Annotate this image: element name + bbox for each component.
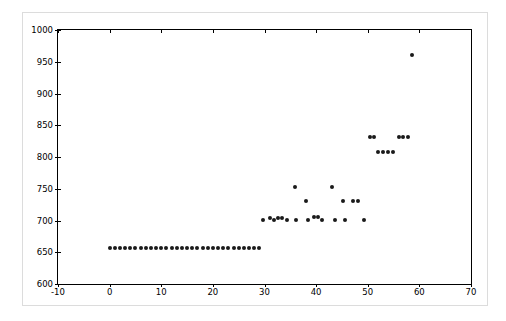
scatter-point xyxy=(261,218,265,222)
scatter-point xyxy=(316,215,320,219)
x-tick-mark-top xyxy=(368,30,369,33)
scatter-point xyxy=(170,246,174,250)
scatter-point xyxy=(372,135,376,139)
scatter-point xyxy=(175,246,179,250)
x-axis-tick-label: 0 xyxy=(107,288,112,297)
scatter-point xyxy=(293,185,297,189)
scatter-point xyxy=(237,246,241,250)
scatter-point xyxy=(232,246,236,250)
y-axis-tick-label: 850 xyxy=(37,121,53,130)
scatter-point xyxy=(154,246,158,250)
scatter-point xyxy=(320,218,324,222)
x-tick-mark-top xyxy=(471,30,472,33)
scatter-plot-axes: 6006507007508008509009501000-10010203040… xyxy=(57,29,472,285)
y-tick-mark-inner xyxy=(58,189,61,190)
scatter-point xyxy=(149,246,153,250)
y-tick-mark-inner xyxy=(58,62,61,63)
scatter-point xyxy=(343,218,347,222)
scatter-point xyxy=(381,150,385,154)
scatter-point xyxy=(268,216,272,220)
scatter-point xyxy=(190,246,194,250)
x-axis-tick-label: 20 xyxy=(207,288,218,297)
figure-canvas: 6006507007508008509009501000-10010203040… xyxy=(0,0,506,321)
scatter-point xyxy=(180,246,184,250)
scatter-point xyxy=(247,246,251,250)
y-tick-mark-inner xyxy=(58,157,61,158)
scatter-point xyxy=(195,246,199,250)
scatter-point xyxy=(216,246,220,250)
scatter-point xyxy=(201,246,205,250)
x-axis-tick-label: 60 xyxy=(414,288,425,297)
scatter-point xyxy=(133,246,137,250)
x-axis-tick-label: -10 xyxy=(51,288,65,297)
scatter-point xyxy=(211,246,215,250)
x-axis-tick-label: 50 xyxy=(362,288,373,297)
scatter-point xyxy=(139,246,143,250)
y-axis-tick-label: 800 xyxy=(37,153,53,162)
x-axis-tick-label: 40 xyxy=(311,288,322,297)
scatter-point xyxy=(108,246,112,250)
y-axis-tick-label: 950 xyxy=(37,58,53,67)
scatter-point xyxy=(368,135,372,139)
scatter-point xyxy=(351,199,355,203)
y-tick-mark-inner xyxy=(58,252,61,253)
scatter-point xyxy=(386,150,390,154)
scatter-point xyxy=(280,216,284,220)
x-axis-tick-label: 10 xyxy=(156,288,167,297)
scatter-point xyxy=(333,218,337,222)
scatter-point xyxy=(376,150,380,154)
x-tick-mark-top xyxy=(161,30,162,33)
scatter-point xyxy=(252,246,256,250)
y-axis-tick-label: 1000 xyxy=(31,26,53,35)
y-axis-tick-label: 650 xyxy=(37,248,53,257)
scatter-point xyxy=(401,135,405,139)
scatter-point xyxy=(410,53,414,57)
scatter-point xyxy=(294,218,298,222)
y-axis-tick-label: 700 xyxy=(37,216,53,225)
scatter-point xyxy=(206,246,210,250)
scatter-point xyxy=(304,199,308,203)
x-tick-mark-top xyxy=(316,30,317,33)
scatter-point xyxy=(128,246,132,250)
x-tick-mark-top xyxy=(58,30,59,33)
scatter-point xyxy=(226,246,230,250)
scatter-point xyxy=(113,246,117,250)
scatter-point xyxy=(406,135,410,139)
x-axis-tick-label: 30 xyxy=(259,288,270,297)
y-axis-tick-label: 900 xyxy=(37,89,53,98)
scatter-point xyxy=(118,246,122,250)
scatter-point xyxy=(330,185,334,189)
scatter-point xyxy=(362,218,366,222)
x-tick-mark-top xyxy=(213,30,214,33)
y-axis-tick-label: 750 xyxy=(37,185,53,194)
scatter-point xyxy=(306,218,310,222)
scatter-point xyxy=(242,246,246,250)
scatter-point xyxy=(391,150,395,154)
scatter-point xyxy=(285,218,289,222)
scatter-point xyxy=(221,246,225,250)
scatter-point xyxy=(257,246,261,250)
scatter-point xyxy=(159,246,163,250)
scatter-point xyxy=(356,199,360,203)
scatter-point xyxy=(341,199,345,203)
scatter-point xyxy=(144,246,148,250)
y-tick-mark-inner xyxy=(58,221,61,222)
y-tick-mark-inner xyxy=(58,94,61,95)
scatter-point xyxy=(123,246,127,250)
scatter-point xyxy=(185,246,189,250)
x-axis-tick-label: 70 xyxy=(466,288,477,297)
x-tick-mark-top xyxy=(419,30,420,33)
scatter-point xyxy=(164,246,168,250)
x-tick-mark-top xyxy=(265,30,266,33)
x-tick-mark-top xyxy=(110,30,111,33)
y-tick-mark-inner xyxy=(58,125,61,126)
